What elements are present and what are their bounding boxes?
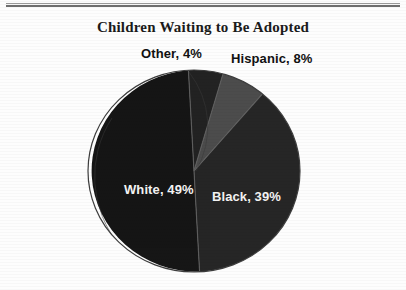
pie-chart bbox=[0, 0, 406, 290]
chart-figure: Children Waiting to Be Adopted bbox=[0, 0, 406, 290]
pie-label-other: Other, 4% bbox=[141, 46, 202, 61]
pie-label-black: Black, 39% bbox=[212, 189, 281, 204]
pie-label-hispanic: Hispanic, 8% bbox=[231, 51, 312, 66]
pie-slice-white[interactable] bbox=[92, 70, 200, 272]
pie-label-white: White, 49% bbox=[124, 182, 194, 197]
